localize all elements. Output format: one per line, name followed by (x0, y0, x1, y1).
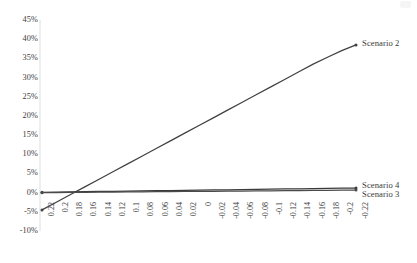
series-endpoint-marker (355, 189, 358, 192)
series-label-scenario-3: Scenario 3 (362, 189, 400, 199)
series-label-scenario-2: Scenario 2 (362, 38, 400, 48)
series-endpoint-marker (41, 208, 44, 211)
plot-area (0, 0, 417, 263)
series-lines (41, 43, 358, 211)
chart-container: 45%40%35%30%25%20%15%10%5%0%-5%-10% 0.22… (0, 0, 417, 263)
series-endpoint-marker (355, 43, 358, 46)
series-line-scenario-2 (42, 45, 356, 210)
series-endpoint-marker (41, 191, 44, 194)
